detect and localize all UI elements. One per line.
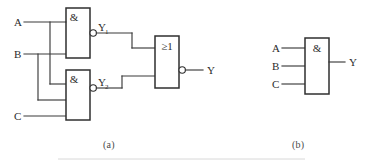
part-b-group: A B C & Y xyxy=(272,38,357,94)
caption-part-b: (b) xyxy=(292,139,304,150)
figure-canvas: .wire { stroke: #3a3a3a; stroke-width: 1… xyxy=(0,0,367,165)
nand-gate-1-symbol: & xyxy=(70,11,79,23)
input-label-a-parta: A xyxy=(14,16,22,28)
nand-gate-2-symbol: & xyxy=(70,73,79,85)
and-gate-symbol-partb: & xyxy=(313,42,322,54)
nor-gate-invert-bubble xyxy=(179,67,185,73)
output-label-y1-subscript: 1 xyxy=(105,28,109,36)
output-label-y2-subscript: 2 xyxy=(105,83,109,91)
nor-gate-symbol: ≥1 xyxy=(161,40,173,52)
output-label-y-parta: Y xyxy=(207,64,215,76)
part-a-group: A B C & Y 1 xyxy=(14,8,215,122)
output-label-y-partb: Y xyxy=(349,56,357,68)
logic-circuit-diagram: .wire { stroke: #3a3a3a; stroke-width: 1… xyxy=(0,0,367,165)
caption-part-a: (a) xyxy=(103,139,115,150)
nand-gate-1-invert-bubble xyxy=(90,30,96,36)
nand-gate-2-invert-bubble xyxy=(90,85,96,91)
input-label-a-partb: A xyxy=(272,42,280,54)
input-label-b-partb: B xyxy=(272,60,279,72)
input-label-c-parta: C xyxy=(14,110,21,122)
input-label-b-parta: B xyxy=(14,48,21,60)
input-label-c-partb: C xyxy=(272,78,279,90)
